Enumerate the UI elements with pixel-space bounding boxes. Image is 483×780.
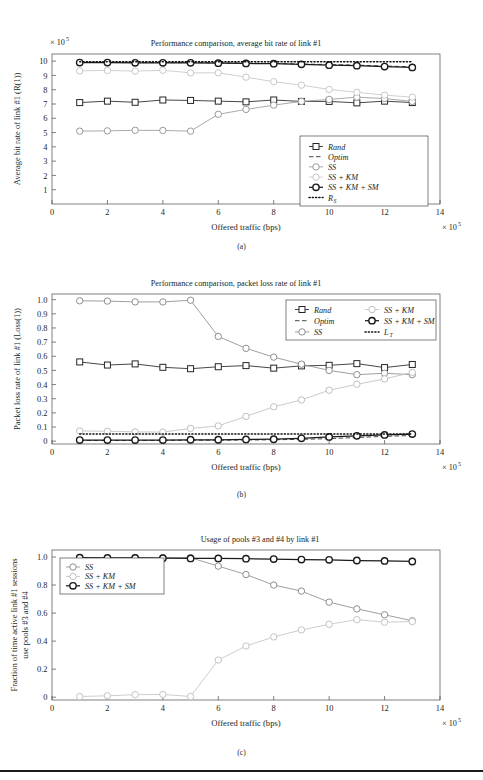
data-marker bbox=[313, 184, 319, 190]
y-tick-label: 0.2 bbox=[37, 409, 47, 418]
data-marker bbox=[243, 643, 249, 649]
data-marker bbox=[132, 99, 138, 105]
data-marker bbox=[313, 174, 319, 180]
y-multiplier: × 105 bbox=[50, 36, 69, 47]
data-marker bbox=[271, 556, 277, 562]
data-marker bbox=[326, 621, 332, 627]
y-tick-label: 9 bbox=[43, 72, 47, 81]
chart-legend: SSSS + KMSS + KM + SM bbox=[60, 558, 164, 594]
data-marker bbox=[271, 102, 277, 108]
data-marker bbox=[409, 64, 415, 70]
x-tick-label: 12 bbox=[380, 704, 388, 713]
panel-a-caption: (a) bbox=[0, 242, 483, 251]
data-marker bbox=[326, 62, 332, 68]
data-marker bbox=[215, 657, 221, 663]
x-tick-label: 12 bbox=[380, 448, 388, 457]
data-marker bbox=[409, 361, 415, 367]
x-tick-label: 14 bbox=[436, 704, 445, 713]
data-marker bbox=[77, 298, 83, 304]
legend-label: SS + KM bbox=[328, 173, 359, 182]
y-axis-label: Fraction of time active link #1 sessions bbox=[9, 558, 19, 691]
data-marker bbox=[160, 67, 166, 73]
data-marker bbox=[215, 98, 221, 104]
y-tick-label: 0.4 bbox=[37, 381, 48, 390]
legend-label: L bbox=[383, 328, 389, 337]
x-tick-label: 2 bbox=[105, 448, 109, 457]
data-marker bbox=[381, 558, 387, 564]
data-marker bbox=[299, 307, 305, 313]
x-multiplier: × 105 bbox=[442, 717, 461, 728]
x-tick-label: 8 bbox=[272, 704, 276, 713]
y-axis-label: use pools #3 and #4 bbox=[20, 590, 30, 658]
data-marker bbox=[77, 437, 83, 443]
y-tick-label: 0.9 bbox=[37, 310, 47, 319]
data-marker bbox=[77, 128, 83, 134]
x-multiplier-base: × 10 bbox=[442, 719, 457, 728]
data-marker bbox=[243, 363, 249, 369]
chart-title: Performance comparison, packet loss rate… bbox=[151, 279, 322, 288]
data-marker bbox=[215, 333, 221, 339]
x-multiplier-exp: 5 bbox=[458, 461, 461, 467]
data-marker bbox=[381, 376, 387, 382]
x-multiplier-exp: 5 bbox=[458, 717, 461, 723]
data-marker bbox=[187, 128, 193, 134]
data-marker bbox=[243, 436, 249, 442]
data-marker bbox=[354, 606, 360, 612]
data-marker bbox=[313, 164, 319, 170]
y-tick-label: 0.7 bbox=[37, 338, 47, 347]
y-tick-label: 3 bbox=[43, 157, 47, 166]
panel-c-caption: (c) bbox=[0, 748, 483, 757]
panel-b: Performance comparison, packet loss rate… bbox=[0, 262, 483, 506]
data-marker bbox=[271, 365, 277, 371]
panel-c: Usage of pools #3 and #4 by link #102468… bbox=[0, 516, 483, 766]
data-marker bbox=[132, 60, 138, 66]
data-marker bbox=[160, 364, 166, 370]
footer-rule bbox=[0, 770, 483, 772]
data-marker bbox=[215, 563, 221, 569]
x-axis-label: Offered traffic (bps) bbox=[211, 462, 280, 472]
legend-label: R bbox=[327, 194, 333, 203]
x-tick-label: 14 bbox=[436, 208, 445, 217]
x-tick-label: 10 bbox=[325, 208, 333, 217]
y-tick-label: 0.5 bbox=[37, 367, 47, 376]
legend-item[interactable]: SS + KM bbox=[365, 306, 415, 315]
data-marker bbox=[409, 618, 415, 624]
data-marker bbox=[326, 599, 332, 605]
data-marker bbox=[381, 619, 387, 625]
x-tick-label: 2 bbox=[105, 208, 109, 217]
data-marker bbox=[77, 359, 83, 365]
chart-a: Performance comparison, average bit rate… bbox=[0, 18, 483, 258]
data-marker bbox=[188, 366, 194, 372]
x-tick-label: 10 bbox=[325, 448, 333, 457]
x-tick-label: 0 bbox=[50, 208, 54, 217]
series-ss-km-sm bbox=[77, 59, 416, 70]
data-marker bbox=[409, 369, 415, 375]
x-tick-label: 8 bbox=[272, 448, 276, 457]
data-marker bbox=[132, 127, 138, 133]
data-marker bbox=[381, 92, 387, 98]
data-marker bbox=[104, 362, 110, 368]
data-marker bbox=[215, 364, 221, 370]
series-ss-km-sm bbox=[77, 431, 416, 443]
data-marker bbox=[409, 558, 415, 564]
x-tick-label: 4 bbox=[161, 704, 166, 713]
legend-item[interactable]: SS + KM bbox=[66, 572, 116, 581]
series-rand bbox=[77, 97, 416, 106]
data-marker bbox=[215, 423, 221, 429]
data-marker bbox=[354, 89, 360, 95]
y-multiplier-base: × 10 bbox=[50, 38, 65, 47]
data-marker bbox=[132, 68, 138, 74]
data-marker bbox=[326, 86, 332, 92]
x-tick-label: 0 bbox=[50, 704, 54, 713]
legend-label: Optim bbox=[328, 153, 349, 162]
x-tick-label: 0 bbox=[50, 448, 54, 457]
page-artifact bbox=[152, 0, 166, 6]
legend-label: Rand bbox=[313, 306, 332, 315]
data-marker bbox=[271, 79, 277, 85]
data-marker bbox=[369, 306, 375, 312]
y-tick-label: 4 bbox=[43, 143, 48, 152]
y-tick-label: 6 bbox=[43, 114, 47, 123]
data-marker bbox=[187, 60, 193, 66]
legend-item[interactable]: SS + KM bbox=[309, 173, 359, 182]
x-multiplier: × 105 bbox=[442, 221, 461, 232]
